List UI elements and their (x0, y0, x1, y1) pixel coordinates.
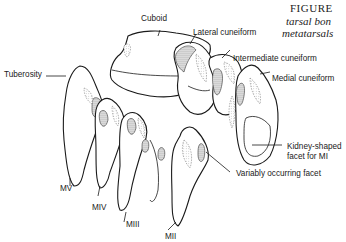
figure-caption-line2: tarsal bon (286, 16, 331, 27)
figure-caption-heading: FIGURE (290, 3, 333, 14)
label-variable-facet: Variably occurring facet (236, 170, 321, 178)
second-metatarsal-bone (172, 127, 209, 226)
foot-bones-diagram: FIGURE tarsal bon metatarsals Cuboid Lat… (0, 0, 346, 242)
label-tuberosity: Tuberosity (4, 71, 42, 79)
label-miv: MIV (92, 204, 107, 212)
label-lateral-cuneiform: Lateral cuneiform (193, 29, 256, 37)
label-kidney-facet-1: Kidney-shaped (287, 143, 342, 151)
miv-leader (98, 186, 100, 196)
label-miii: MIII (126, 221, 140, 229)
label-medial-cuneiform: Medial cuneiform (272, 75, 334, 83)
label-kidney-facet-2: facet for MI (287, 153, 328, 161)
label-cuboid: Cuboid (141, 15, 167, 23)
figure-caption-line3: metatarsals (282, 28, 333, 39)
label-mv: MV (60, 185, 72, 193)
mii-leader (168, 222, 176, 230)
variable-facet-leader (206, 152, 230, 172)
label-intermediate-cuneiform: Intermediate cuneiform (233, 55, 317, 63)
label-mii: MII (165, 233, 176, 241)
